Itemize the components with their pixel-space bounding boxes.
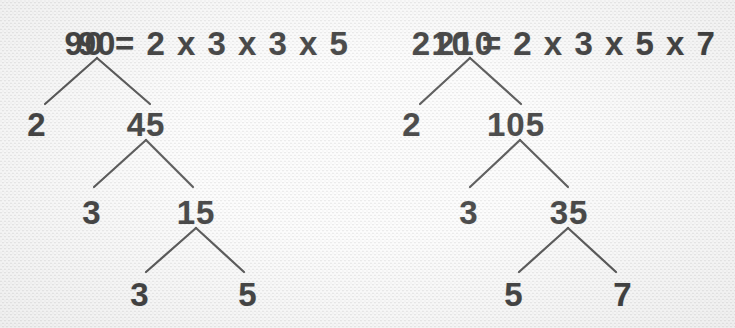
branch-105-to-35: [520, 140, 568, 187]
node-tree-90-leaf-5: 5: [238, 278, 257, 311]
node-tree-210-branch-35: 35: [550, 196, 589, 229]
factor-tree-figure: 90 = 2 x 3 x 3 x 59024531535210 = 2 x 3 …: [0, 0, 735, 328]
node-tree-210-leaf-7: 7: [613, 278, 632, 311]
branch-35-to-7: [568, 228, 616, 272]
branch-210-to-105: [470, 58, 521, 104]
node-tree-210-branch-105: 105: [487, 108, 545, 141]
branch-35-to-5: [519, 228, 568, 272]
branch-15-to-3: [146, 228, 196, 272]
node-tree-90-leaf-3-a: 3: [82, 196, 101, 229]
node-tree-210-leaf-3: 3: [459, 196, 478, 229]
branch-90-to-45: [97, 58, 150, 104]
branch-105-to-3: [470, 140, 520, 187]
node-tree-90-branch-45: 45: [127, 108, 166, 141]
branch-90-to-2: [45, 58, 97, 104]
node-tree-90-leaf-2: 2: [27, 108, 46, 141]
node-tree-210-leaf-5: 5: [504, 278, 523, 311]
node-tree-90-leaf-3-b: 3: [130, 278, 149, 311]
branch-210-to-2: [420, 58, 470, 104]
branch-15-to-5: [196, 228, 244, 272]
node-tree-90-branch-15: 15: [177, 196, 216, 229]
branch-45-to-15: [146, 140, 193, 187]
branch-45-to-3: [94, 140, 146, 187]
node-tree-90-root-90: 90: [78, 27, 117, 60]
node-tree-210-root-210: 210: [436, 27, 494, 60]
node-tree-210-leaf-2: 2: [402, 108, 421, 141]
